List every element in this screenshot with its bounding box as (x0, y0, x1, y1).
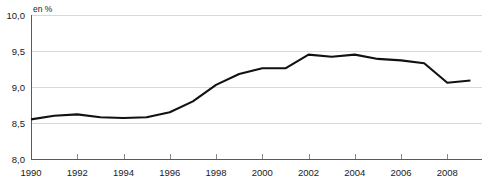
line-chart: 10,09,59,08,58,0 19901992199419961998200… (0, 0, 482, 190)
y-axis-tick-label: 10,0 (7, 10, 26, 21)
axis-unit-label: en % (33, 4, 53, 14)
x-axis-tick-label: 2000 (252, 167, 273, 178)
y-axis-tick-label: 8,5 (12, 118, 25, 129)
chart-canvas: 10,09,59,08,58,0 19901992199419961998200… (0, 0, 482, 190)
x-axis-tickmarks (78, 154, 448, 159)
y-axis-tick-labels: 10,09,59,08,58,0 (7, 10, 26, 165)
x-axis-tick-label: 2004 (344, 167, 365, 178)
x-axis-tick-label: 1990 (20, 167, 41, 178)
y-axis-tick-label: 9,0 (12, 82, 25, 93)
x-axis-tick-label: 1998 (205, 167, 226, 178)
y-axis-tick-label: 8,0 (12, 154, 25, 165)
x-axis-tick-label: 2006 (390, 167, 411, 178)
x-axis-tick-label: 1994 (113, 167, 134, 178)
x-axis-tick-label: 1992 (67, 167, 88, 178)
x-axis-tick-labels: 1990199219941996199820002002200420062008 (20, 167, 457, 178)
x-axis-tick-label: 2002 (298, 167, 319, 178)
x-axis-tick-label: 2008 (437, 167, 458, 178)
y-axis-tick-label: 9,5 (12, 46, 25, 57)
x-axis-tick-label: 1996 (159, 167, 180, 178)
